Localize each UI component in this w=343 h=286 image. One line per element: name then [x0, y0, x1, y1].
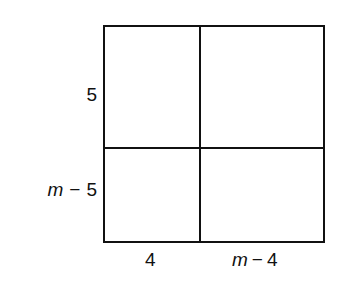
- minus-operator: −: [252, 249, 263, 270]
- left-top-label: 5: [86, 85, 97, 104]
- minus-operator: −: [69, 179, 80, 200]
- left-bottom-label: m−5: [47, 180, 97, 199]
- constant: 5: [86, 179, 97, 200]
- bottom-right-label: m−4: [232, 250, 278, 269]
- constant: 4: [267, 249, 278, 270]
- outer-square: [103, 25, 325, 243]
- horizontal-divider: [103, 147, 325, 149]
- variable-m: m: [232, 249, 248, 270]
- bottom-left-label: 4: [145, 250, 156, 269]
- left-top-value: 5: [86, 84, 97, 105]
- variable-m: m: [47, 179, 63, 200]
- vertical-divider: [199, 25, 201, 243]
- bottom-left-value: 4: [145, 249, 156, 270]
